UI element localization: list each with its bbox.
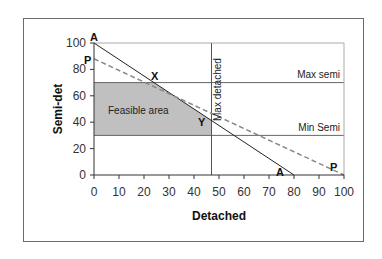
point-p-left-label: P — [84, 54, 91, 66]
x-axis-title: Detached — [192, 209, 246, 223]
max-detached-label: Max detached — [212, 58, 223, 121]
x-tick-label: 60 — [237, 185, 251, 199]
x-tick-label: 70 — [262, 185, 276, 199]
x-tick-label: 40 — [187, 185, 201, 199]
point-p-right-label: P — [330, 161, 337, 173]
point-a-top-label: A — [90, 31, 98, 43]
x-ticks — [94, 175, 344, 179]
point-y-label: Y — [198, 116, 206, 128]
x-tick-label: 100 — [334, 185, 354, 199]
y-axis-title: Semi-det — [51, 84, 65, 135]
x-tick-label: 0 — [91, 185, 98, 199]
x-tick-label: 50 — [212, 185, 226, 199]
y-tick-label: 40 — [73, 115, 87, 129]
x-tick-label: 30 — [162, 185, 176, 199]
min-semi-label: Min Semi — [298, 122, 340, 133]
x-tick-labels: 0 10 20 30 40 50 60 70 80 90 100 — [91, 185, 355, 199]
x-tick-label: 10 — [112, 185, 126, 199]
y-tick-label: 100 — [66, 36, 86, 50]
point-a-bottom-label: A — [276, 166, 284, 178]
y-tick-label: 60 — [73, 89, 87, 103]
x-tick-label: 20 — [137, 185, 151, 199]
chart-svg: 0 20 40 60 80 100 0 10 20 30 40 50 60 70… — [0, 0, 382, 259]
y-tick-label: 20 — [73, 142, 87, 156]
feasible-area-label: Feasible area — [108, 105, 169, 116]
x-tick-label: 90 — [312, 185, 326, 199]
max-semi-label: Max semi — [297, 69, 340, 80]
y-tick-label: 0 — [79, 168, 86, 182]
x-tick-label: 80 — [287, 185, 301, 199]
point-x-label: X — [151, 70, 159, 82]
